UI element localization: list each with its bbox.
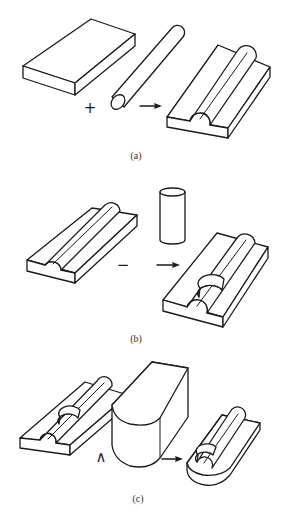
union-operator: + — [84, 101, 97, 116]
difference-operator: − — [117, 258, 130, 273]
caption-b: (b) — [130, 333, 142, 344]
caption-c: (c) — [132, 493, 143, 504]
panel-c-result — [187, 407, 260, 485]
csg-diagram — [0, 0, 288, 523]
panel-a-arrow-icon — [140, 103, 162, 109]
caption-a: (a) — [130, 150, 141, 161]
panel-b-vertical-cylinder — [160, 188, 185, 244]
panel-b-arrow-icon — [157, 262, 180, 268]
panel-a-slab — [23, 19, 135, 95]
panel-a-result — [167, 45, 270, 138]
panel-c-arrow-icon — [162, 456, 183, 462]
intersection-operator: ∧ — [96, 450, 107, 465]
panel-c-rounded-block — [112, 362, 188, 467]
panel-b-result — [163, 233, 268, 327]
